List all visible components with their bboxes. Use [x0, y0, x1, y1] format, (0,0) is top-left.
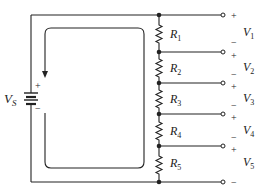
svg-text:+: + [231, 10, 237, 21]
svg-text:−: − [231, 69, 237, 80]
output-label-2: V2 [243, 60, 254, 76]
source-minus: − [35, 103, 41, 114]
svg-text:+: + [231, 50, 237, 61]
terminal-signs: + − + − + − + − + − [231, 10, 237, 188]
current-arrow-icon [42, 71, 48, 78]
svg-text:−: − [231, 177, 237, 188]
resistor-label-1: R1 [169, 27, 181, 43]
svg-text:−: − [231, 37, 237, 48]
svg-text:−: − [231, 132, 237, 143]
svg-text:+: + [231, 81, 237, 92]
svg-text:−: − [231, 100, 237, 111]
output-label-4: V4 [243, 123, 254, 139]
circuit-diagram: VS + − R1 R2 R3 R4 R5 + − + − + − + − + … [0, 0, 268, 195]
resistor-chain [156, 15, 162, 182]
output-label-1: V1 [243, 25, 254, 41]
source-label: VS [4, 91, 17, 108]
resistor-label-3: R3 [169, 92, 181, 108]
output-terminals [221, 13, 225, 184]
resistor-label-2: R2 [169, 61, 181, 77]
output-label-5: V5 [243, 155, 254, 171]
resistor-label-4: R4 [169, 124, 181, 140]
svg-text:+: + [231, 144, 237, 155]
source-plus: + [35, 80, 41, 91]
current-loop-path [45, 28, 144, 168]
svg-text:+: + [231, 112, 237, 123]
output-label-3: V3 [243, 91, 254, 107]
resistor-label-5: R5 [169, 156, 181, 172]
